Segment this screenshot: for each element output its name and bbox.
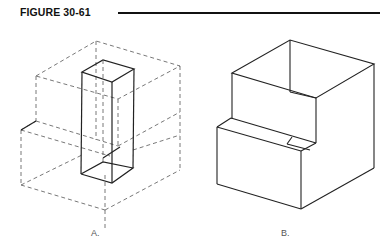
figure-b <box>217 40 374 209</box>
dashed-bounding-box <box>21 41 180 228</box>
label-a: A. <box>91 228 100 238</box>
label-b: B. <box>281 228 290 238</box>
figure-drawings <box>0 0 391 248</box>
figure-a <box>21 41 180 228</box>
